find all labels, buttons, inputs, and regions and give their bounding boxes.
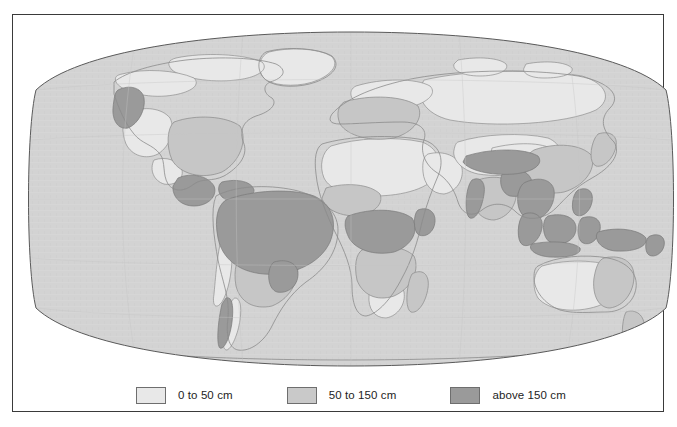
legend-swatch-mid (287, 387, 317, 404)
map-ocean (26, 30, 676, 370)
legend-item-mid: 50 to 150 cm (287, 387, 397, 404)
region-siberia (420, 71, 605, 124)
world-map (26, 30, 676, 370)
region-new-zealand (622, 311, 644, 348)
legend-item-low: 0 to 50 cm (136, 387, 233, 404)
legend-label-high: above 150 cm (492, 389, 565, 401)
legend-item-high: above 150 cm (450, 387, 565, 404)
legend-swatch-high (450, 387, 480, 404)
figure-container: 0 to 50 cm 50 to 150 cm above 150 cm (0, 0, 677, 427)
map-legend: 0 to 50 cm 50 to 150 cm above 150 cm (26, 375, 676, 415)
region-new-guinea (596, 229, 646, 251)
region-borneo (543, 215, 576, 244)
legend-label-mid: 50 to 150 cm (329, 389, 397, 401)
legend-swatch-low (136, 387, 166, 404)
figure-frame: 0 to 50 cm 50 to 150 cm above 150 cm (12, 14, 664, 412)
world-map-svg (26, 30, 676, 370)
legend-label-low: 0 to 50 cm (178, 389, 233, 401)
region-new-siberian-islands (524, 62, 573, 78)
